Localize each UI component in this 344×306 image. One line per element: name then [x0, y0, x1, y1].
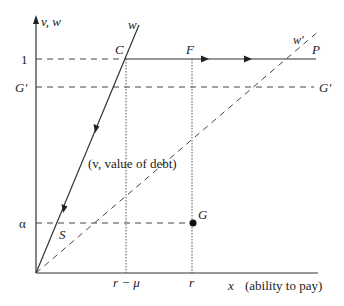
- cp-arrow-2-icon: [244, 56, 252, 63]
- label-value-of-debt: (v, value of debt): [88, 156, 177, 171]
- label-g-prime-right: G': [319, 80, 331, 95]
- w-line: [36, 25, 139, 273]
- y-tick-alpha: α: [19, 216, 26, 231]
- y-axis-label: v, w: [41, 14, 61, 29]
- x-tick-r-minus-mu: r − μ: [113, 275, 140, 290]
- x-tick-r: r: [189, 275, 195, 290]
- label-f: F: [185, 42, 195, 57]
- g-point: [190, 220, 197, 227]
- x-axis-var-label: x: [227, 278, 234, 293]
- x-axis-desc-label: (ability to pay): [245, 278, 322, 293]
- y-axis-arrow-icon: [33, 15, 39, 24]
- y-tick-1: 1: [21, 52, 28, 67]
- label-p: P: [311, 42, 320, 57]
- w-prime-line: [36, 30, 320, 273]
- cp-arrow-1-icon: [201, 56, 209, 63]
- diagram-canvas: v, w 1 G' α r − μ r x (ability to pay) w…: [0, 0, 344, 306]
- label-w-prime: w': [293, 33, 304, 47]
- label-c: C: [115, 42, 124, 57]
- label-w: w: [128, 17, 137, 32]
- label-s: S: [59, 227, 66, 242]
- label-g: G: [198, 207, 208, 222]
- w-line-lower-arrow-icon: [62, 204, 68, 213]
- debt-value-diagram: v, w 1 G' α r − μ r x (ability to pay) w…: [0, 0, 344, 306]
- y-tick-g-prime: G': [15, 80, 27, 95]
